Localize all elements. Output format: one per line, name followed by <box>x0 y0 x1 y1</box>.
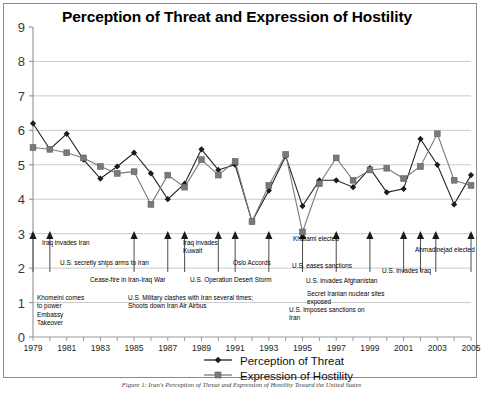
annotation-label-khomeini-comes-to-power-embass: Takeover <box>37 319 64 326</box>
annotation-arrow-head-1993 <box>265 231 272 239</box>
data-point-hostility-1982 <box>81 155 87 161</box>
annotation-label-iraq-invades-kuwait: Kuwait <box>183 247 202 254</box>
annotation-arrow-head-1979 <box>29 231 36 239</box>
data-point-hostility-1996 <box>316 181 322 187</box>
annotation-label-oslo-accords: Oslo Accords <box>233 259 271 266</box>
annotation-label-secret-iranian-nuclear-sites-e: Secret Iranian nuclear sites <box>307 290 384 297</box>
data-point-hostility-1985 <box>131 169 137 175</box>
x-tick-label-1987: 1987 <box>158 343 177 353</box>
annotation-label-iraq-invades-kuwait: Iraq invades <box>183 239 218 247</box>
data-point-hostility-1999 <box>367 167 373 173</box>
data-point-threat-2002 <box>417 136 423 142</box>
x-tick-label-1981: 1981 <box>57 343 76 353</box>
annotation-arrow-head-1980 <box>46 231 53 239</box>
annotation-label-ahmadinejad-elected: Ahmadinejad elected <box>415 246 475 254</box>
annotation-label-khomeini-comes-to-power-embass: Khomeini comes <box>37 294 84 301</box>
annotation-label-iraq-invades-iran: Iraq invades Iran <box>42 239 90 247</box>
annotation-label-secret-iranian-nuclear-sites-e: exposed <box>307 298 332 306</box>
annotation-arrow-head-1987 <box>164 231 171 239</box>
data-point-threat-2005 <box>468 172 474 178</box>
data-point-hostility-2005 <box>468 183 474 189</box>
data-point-hostility-1981 <box>64 150 70 156</box>
x-tick-label-1985: 1985 <box>125 343 144 353</box>
series-line-perception-of-threat <box>33 123 471 221</box>
annotation-label-khomeini-comes-to-power-embass: to power <box>37 302 62 310</box>
data-point-threat-2004 <box>451 201 457 207</box>
chart-plot: 0123456789197919811983198519871989199119… <box>0 0 483 395</box>
data-point-hostility-1991 <box>232 158 238 164</box>
x-tick-label-1979: 1979 <box>23 343 42 353</box>
data-point-hostility-1990 <box>215 172 221 178</box>
data-point-hostility-1986 <box>148 201 154 207</box>
annotation-arrow-head-1991 <box>232 231 239 239</box>
data-point-hostility-1979 <box>30 145 36 151</box>
annotation-label-u-s-military-clashes-with-iran: U.S. Military clashes with Iran several … <box>128 294 253 302</box>
legend-label-perception-of-threat: Perception of Threat <box>240 355 345 367</box>
data-point-hostility-1995 <box>300 229 306 235</box>
legend-label-expression-of-hostility: Expression of Hostility <box>240 370 353 382</box>
x-tick-label-1999: 1999 <box>360 343 379 353</box>
x-tick-label-1995: 1995 <box>293 343 312 353</box>
annotation-arrow-head-2003 <box>432 231 439 239</box>
annotation-label-u-s-eases-sanctions: U.S. eases sanctions <box>292 262 352 269</box>
y-tick-label-1: 1 <box>18 296 25 311</box>
y-tick-label-2: 2 <box>18 261 25 276</box>
data-point-hostility-1988 <box>182 184 188 190</box>
legend-marker-square <box>215 372 221 378</box>
data-point-threat-2003 <box>434 162 440 168</box>
annotation-arrow-head-2001 <box>400 231 407 239</box>
annotation-arrow-head-1988 <box>181 231 188 239</box>
annotation-arrow-head-1990 <box>215 231 222 239</box>
data-point-hostility-2000 <box>384 165 390 171</box>
chart-page: Perception of Threat and Expression of H… <box>0 0 483 395</box>
annotation-label-u-s-imposes-sanctions-on-iran: Iran <box>289 314 300 321</box>
x-tick-label-1993: 1993 <box>259 343 278 353</box>
annotation-label-u-s-secretly-ships-arms-to-ira: U.S. secretly ships arms to Iran <box>60 259 149 267</box>
x-tick-label-1983: 1983 <box>91 343 110 353</box>
legend-marker-diamond <box>215 357 221 363</box>
data-point-threat-1997 <box>333 177 339 183</box>
data-point-hostility-2004 <box>451 177 457 183</box>
data-point-hostility-2001 <box>401 176 407 182</box>
annotation-label-u-s-imposes-sanctions-on-iran: U.S. imposes sanctions on <box>289 306 365 314</box>
annotation-label-u-s-invades-iraq: U.S. invades Iraq <box>382 267 431 275</box>
x-tick-label-2003: 2003 <box>428 343 447 353</box>
data-point-hostility-1993 <box>266 183 272 189</box>
data-point-threat-1995 <box>299 203 305 209</box>
annotation-label-khatami-elected: Khatami elected <box>293 235 339 242</box>
annotation-arrow-head-2002 <box>417 231 424 239</box>
annotation-label-u-s-invades-afghanistan: U.S. invades Afghanistan <box>306 277 378 285</box>
y-tick-label-5: 5 <box>18 158 25 173</box>
y-tick-label-9: 9 <box>18 20 25 35</box>
data-point-hostility-1983 <box>97 164 103 170</box>
data-point-threat-1979 <box>30 120 36 126</box>
data-point-hostility-2002 <box>418 164 424 170</box>
annotation-arrow-head-1999 <box>366 231 373 239</box>
x-tick-label-1997: 1997 <box>327 343 346 353</box>
annotation-label-khomeini-comes-to-power-embass: Embassy <box>37 311 64 319</box>
figure-caption: Figure 1: Iran's Perception of Threat an… <box>0 381 483 388</box>
data-point-hostility-1987 <box>165 172 171 178</box>
data-point-hostility-1984 <box>114 170 120 176</box>
y-tick-label-7: 7 <box>18 89 25 104</box>
y-tick-label-3: 3 <box>18 227 25 242</box>
data-point-hostility-1998 <box>350 177 356 183</box>
x-tick-label-2001: 2001 <box>394 343 413 353</box>
x-tick-label-2005: 2005 <box>461 343 480 353</box>
x-tick-label-1989: 1989 <box>192 343 211 353</box>
annotation-arrow-head-2005 <box>467 231 474 239</box>
x-tick-label-1991: 1991 <box>226 343 245 353</box>
data-point-hostility-2003 <box>434 131 440 137</box>
data-point-hostility-1989 <box>199 157 205 163</box>
y-tick-label-4: 4 <box>18 192 25 207</box>
y-tick-label-8: 8 <box>18 54 25 69</box>
annotation-label-cease-fire-in-iran-iraq-war: Cease-fire in Iran-Iraq War <box>90 276 166 284</box>
data-point-hostility-1980 <box>47 146 53 152</box>
annotation-label-u-s-operation-desert-storm: U.S. Operation Desert Storm <box>190 276 272 284</box>
annotation-arrow-head-1985 <box>130 231 137 239</box>
y-tick-label-6: 6 <box>18 123 25 138</box>
data-point-hostility-1992 <box>249 219 255 225</box>
data-point-threat-2001 <box>401 186 407 192</box>
data-point-hostility-1997 <box>333 155 339 161</box>
data-point-hostility-1994 <box>283 152 289 158</box>
